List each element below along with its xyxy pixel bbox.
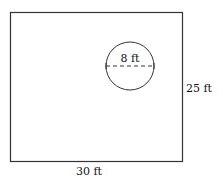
height-label: 25 ft: [186, 82, 213, 95]
rectangle-outline: [11, 13, 183, 162]
diameter-label: 8 ft: [121, 52, 141, 65]
width-label: 30 ft: [76, 165, 103, 178]
diagram: 8 ft 30 ft 25 ft: [0, 0, 223, 180]
